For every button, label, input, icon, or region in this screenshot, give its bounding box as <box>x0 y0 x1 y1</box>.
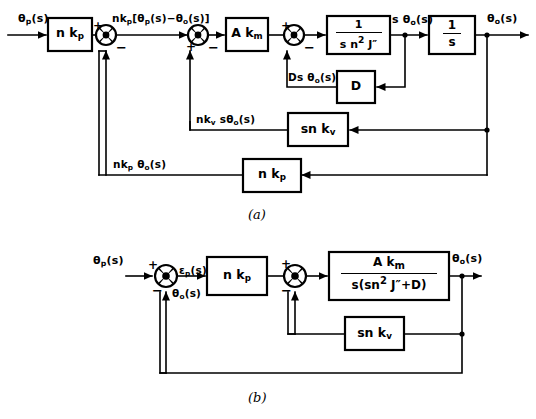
block-label-nkp-feedback: n kp <box>243 168 301 182</box>
label-output-theta-o-a: θo(s) <box>487 13 517 25</box>
plant-denominator: s n2 J″ <box>327 35 390 50</box>
sign-sum1b-minus: − <box>152 284 163 297</box>
label-output-theta-o-b: θo(s) <box>452 253 482 265</box>
block-label-akm: A km <box>226 27 268 41</box>
plant-b-denominator: s(sn2 J″+D) <box>329 276 449 291</box>
label-damping-feedback: Ds θo(s) <box>288 72 336 84</box>
block-diagram-canvas <box>0 0 536 419</box>
integrator-denominator: s <box>429 36 475 48</box>
caption-a: (a) <box>248 208 266 221</box>
block-label-plant: 1 s n2 J″ <box>327 19 390 50</box>
label-input-theta-p-a: θp(s) <box>18 13 49 25</box>
sign-sum2b-plus: + <box>281 258 291 270</box>
figure-root: θp(s) n kp + − nkp[θp(s)−θo(s)] + − A km… <box>0 0 536 419</box>
caption-b: (b) <box>248 391 266 404</box>
label-velocity-feedback: nkv sθo(s) <box>196 114 255 126</box>
block-label-nkp-forward-b: n kp <box>207 269 267 283</box>
integrator-numerator: 1 <box>429 19 475 31</box>
label-input-theta-p-b: θp(s) <box>93 255 124 267</box>
plant-numerator: 1 <box>327 19 390 30</box>
label-position-feedback: nkp θo(s) <box>113 159 166 171</box>
label-after-sum1: nkp[θp(s)−θo(s)] <box>112 13 210 25</box>
wire-position-feedback-b <box>160 292 462 373</box>
sign-sum2-minus: − <box>208 41 219 54</box>
block-label-nkp-forward: n kp <box>48 27 92 41</box>
label-feedback-theta-o-b: θo(s) <box>172 288 201 300</box>
sign-sum2-plus: + <box>186 41 196 53</box>
block-label-damping: D <box>337 80 375 93</box>
sign-sum1-minus: − <box>116 41 127 54</box>
sign-sum2b-minus: − <box>281 284 292 297</box>
wire-plant-to-integrator <box>390 32 427 37</box>
label-error-b: εp(s) <box>179 265 207 277</box>
sign-sum3-plus: + <box>281 20 291 32</box>
label-s-theta-o: s θo(s) <box>392 14 433 26</box>
block-label-sn-kv-b: sn kv <box>345 327 404 341</box>
sign-sum3-minus: − <box>304 41 315 54</box>
wire-integrator-to-output <box>475 32 528 37</box>
block-label-integrator: 1 s <box>429 19 475 48</box>
block-label-plant-b: A km s(sn2 J″+D) <box>329 256 449 291</box>
sign-sum1b-plus: + <box>148 259 158 271</box>
block-label-sn-kv: sn kv <box>288 123 348 137</box>
sign-sum1-plus: + <box>93 20 103 32</box>
plant-b-numerator: A km <box>329 256 449 271</box>
wire-plantb-to-output <box>449 273 481 278</box>
